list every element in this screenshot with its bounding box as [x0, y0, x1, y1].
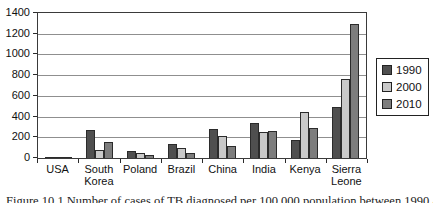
- bar-group: [243, 13, 284, 158]
- bar-group: [202, 13, 243, 158]
- bar-2000: [95, 150, 104, 158]
- x-axis-label: China: [202, 164, 243, 187]
- bar-group: [79, 13, 120, 158]
- bar-2000: [177, 148, 186, 158]
- x-axis-tick: [120, 159, 121, 163]
- x-axis-tick: [202, 159, 203, 163]
- x-axis-tick: [326, 159, 327, 163]
- x-axis-labels: USASouth KoreaPolandBrazilChinaIndiaKeny…: [37, 164, 367, 187]
- x-axis-label: South Korea: [78, 164, 119, 187]
- bar-1990: [209, 129, 218, 158]
- x-axis-tick: [78, 159, 79, 163]
- y-axis-tick: [33, 12, 37, 13]
- bar-2010: [227, 146, 236, 158]
- bar-2000: [259, 132, 268, 158]
- legend-swatch-icon: [382, 82, 392, 92]
- x-axis-tick: [367, 159, 368, 163]
- bar-1990: [168, 144, 177, 159]
- bar-2000: [300, 112, 309, 158]
- y-axis-label: 1400: [0, 6, 30, 18]
- x-axis-tick: [243, 159, 244, 163]
- legend-label: 2010: [396, 98, 422, 110]
- y-axis-label: 1000: [0, 47, 30, 59]
- bar-2010: [186, 153, 195, 158]
- bar-groups: [38, 13, 366, 158]
- bar-group: [38, 13, 79, 158]
- y-axis-label: 400: [0, 110, 30, 122]
- y-axis-tick: [33, 116, 37, 117]
- y-axis-tick: [33, 33, 37, 34]
- x-axis-label: India: [243, 164, 284, 187]
- bar-1990: [86, 130, 95, 158]
- legend-item-2000: 2000: [382, 81, 422, 93]
- x-axis-tick: [285, 159, 286, 163]
- x-axis-label: Poland: [120, 164, 161, 187]
- bar-2000: [218, 136, 227, 158]
- y-axis-tick: [33, 136, 37, 137]
- legend-swatch-icon: [382, 65, 392, 75]
- bar-2000: [54, 157, 63, 158]
- bar-2010: [309, 128, 318, 158]
- y-axis-tick: [33, 53, 37, 54]
- bar-2000: [136, 153, 145, 158]
- y-axis-tick: [33, 95, 37, 96]
- y-axis-tick: [33, 74, 37, 75]
- bar-group: [120, 13, 161, 158]
- bar-1990: [291, 140, 300, 158]
- bar-group: [284, 13, 325, 158]
- y-axis-label: 800: [0, 68, 30, 80]
- bar-2010: [268, 131, 277, 158]
- x-axis-label: Kenya: [285, 164, 326, 187]
- x-axis-tick: [161, 159, 162, 163]
- legend-label: 2000: [396, 81, 422, 93]
- bar-2010: [350, 24, 359, 158]
- bar-1990: [127, 151, 136, 158]
- y-axis-tick: [33, 157, 37, 158]
- y-axis-label: 0: [0, 151, 30, 163]
- legend-label: 1990: [396, 64, 422, 76]
- x-axis-tick: [37, 159, 38, 163]
- legend-swatch-icon: [382, 99, 392, 109]
- plot-area: [37, 12, 367, 159]
- bar-2000: [341, 79, 350, 158]
- y-axis-label: 1200: [0, 27, 30, 39]
- legend-item-2010: 2010: [382, 98, 422, 110]
- chart-figure: USASouth KoreaPolandBrazilChinaIndiaKeny…: [0, 0, 433, 203]
- legend: 199020002010: [376, 58, 429, 116]
- y-axis-label: 600: [0, 89, 30, 101]
- bar-2010: [104, 142, 113, 158]
- x-axis-label: Brazil: [161, 164, 202, 187]
- bar-1990: [45, 157, 54, 158]
- figure-caption: Figure 10.1 Number of cases of TB diagno…: [6, 194, 432, 203]
- bar-2010: [145, 155, 154, 158]
- x-axis-label: Sierra Leone: [326, 164, 367, 187]
- bar-1990: [332, 107, 341, 158]
- y-axis-label: 200: [0, 130, 30, 142]
- bar-group: [325, 13, 366, 158]
- bar-2010: [63, 157, 72, 158]
- bar-group: [161, 13, 202, 158]
- x-axis-label: USA: [37, 164, 78, 187]
- bar-1990: [250, 123, 259, 158]
- legend-item-1990: 1990: [382, 64, 422, 76]
